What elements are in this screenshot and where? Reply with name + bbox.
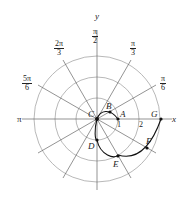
point-label-c: C [88, 110, 94, 119]
point-label-f: F [146, 137, 152, 146]
point-label-g: G [151, 110, 158, 119]
radial-tick-2: 2 [139, 121, 143, 129]
y-axis-label: y [95, 12, 99, 21]
angle-label-pi-6: π6 [160, 75, 166, 92]
point-label-b: B [106, 102, 112, 111]
point-label-a: A [120, 110, 126, 119]
angle-label-2pi-3: 2π3 [54, 40, 64, 57]
radial-tick-1: 1 [117, 121, 121, 129]
point-label-e: E [113, 160, 119, 169]
point-label-d: D [88, 142, 95, 151]
polar-diagram: y x π2 π3 π6 2π3 5π6 π 1 2 A B C D E F G [0, 0, 185, 203]
angle-label-5pi-6: 5π6 [22, 75, 32, 92]
angle-label-pi-3: π3 [130, 40, 136, 57]
x-axis-label: x [172, 115, 176, 124]
angle-label-pi: π [17, 115, 22, 124]
angle-label-pi-2: π2 [92, 28, 98, 45]
